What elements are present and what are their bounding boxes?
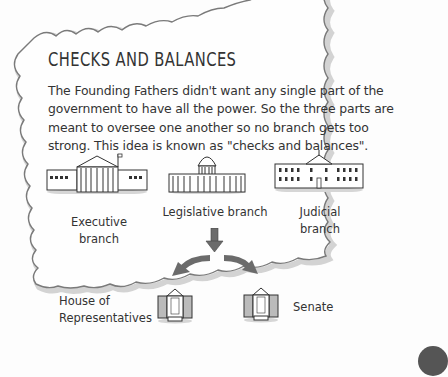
label-line: branch <box>64 231 134 248</box>
section-paragraph: The Founding Fathers didn't want any sin… <box>48 82 398 155</box>
page-corner-circle <box>418 346 448 376</box>
label-line: Legislative branch <box>160 204 270 221</box>
label-line: Senate <box>293 299 353 316</box>
senate-label: Senate <box>293 299 353 316</box>
executive-building-icon <box>46 152 148 194</box>
house-chamber-icon <box>157 288 193 324</box>
executive-branch-label: Executive branch <box>64 214 134 248</box>
judicial-branch-label: Judicial branch <box>290 204 350 238</box>
legislative-branch-label: Legislative branch <box>160 204 270 221</box>
label-line: Executive <box>64 214 134 231</box>
label-line: House of <box>59 293 159 310</box>
curved-arrow-left-icon <box>182 258 210 268</box>
white-house-building-icon <box>274 150 364 192</box>
label-line: Judicial <box>290 204 350 221</box>
label-line: branch <box>290 221 350 238</box>
senate-chamber-icon <box>243 287 279 323</box>
capitol-building-icon <box>168 148 246 194</box>
curved-arrow-right-icon <box>224 258 248 266</box>
down-arrow-icon <box>206 228 223 252</box>
house-of-representatives-label: House of Representatives <box>59 293 159 327</box>
section-title: CHECKS AND BALANCES <box>48 48 236 70</box>
label-line: Representatives <box>59 310 159 327</box>
branch-arrows <box>168 228 268 280</box>
